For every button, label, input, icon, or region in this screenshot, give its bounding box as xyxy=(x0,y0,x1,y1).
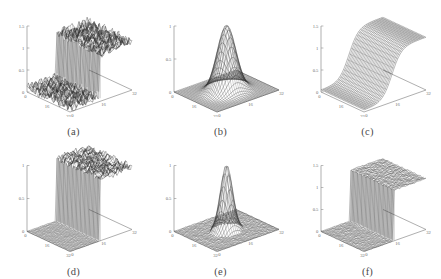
svg-text:1: 1 xyxy=(22,46,25,51)
subplot-caption-b: (b) xyxy=(147,126,294,137)
svg-text:1: 1 xyxy=(169,24,172,29)
subplot-panel-e: 10.500163201632 (e) xyxy=(147,139,294,279)
plot-area-f: 1.510.500163201632 xyxy=(294,139,441,257)
svg-text:32: 32 xyxy=(279,91,284,96)
svg-text:32: 32 xyxy=(279,230,284,235)
svg-text:16: 16 xyxy=(192,243,197,248)
svg-text:1: 1 xyxy=(22,163,25,168)
svg-text:0.5: 0.5 xyxy=(313,68,319,73)
svg-text:0: 0 xyxy=(71,113,74,117)
svg-text:0: 0 xyxy=(171,233,174,238)
subplot-panel-d: 10.500163201632 (d) xyxy=(0,139,147,279)
subplot-panel-b: 10.500163201632 (b) xyxy=(147,0,294,139)
svg-text:16: 16 xyxy=(101,241,106,246)
svg-text:1: 1 xyxy=(316,185,319,190)
plot-area-b: 10.500163201632 xyxy=(147,0,294,117)
svg-text:32: 32 xyxy=(132,230,137,235)
svg-text:32: 32 xyxy=(426,91,431,96)
svg-text:1: 1 xyxy=(169,163,172,168)
surface-plot-e: 10.500163201632 xyxy=(147,139,294,257)
subplot-panel-a: 1.510.500163201632 (a) xyxy=(0,0,147,139)
svg-text:0: 0 xyxy=(24,233,27,238)
svg-text:32: 32 xyxy=(132,91,137,96)
subplot-panel-c: 1.510.500163201632 (c) xyxy=(294,0,441,139)
svg-text:0: 0 xyxy=(71,252,74,257)
subplot-caption-a: (a) xyxy=(0,126,147,137)
plot-area-e: 10.500163201632 xyxy=(147,139,294,257)
svg-text:0: 0 xyxy=(365,113,368,117)
surface-plot-f: 1.510.500163201632 xyxy=(294,139,441,257)
svg-text:1.5: 1.5 xyxy=(313,24,319,29)
plot-area-a: 1.510.500163201632 xyxy=(0,0,147,117)
svg-text:0.5: 0.5 xyxy=(19,68,25,73)
svg-text:16: 16 xyxy=(395,241,400,246)
svg-text:0: 0 xyxy=(365,252,368,257)
svg-text:16: 16 xyxy=(339,243,344,248)
svg-text:0: 0 xyxy=(171,94,174,99)
svg-text:16: 16 xyxy=(248,241,253,246)
subplot-caption-d: (d) xyxy=(0,266,147,277)
svg-text:0: 0 xyxy=(24,94,27,99)
figure-3d-surface-grid: 1.510.500163201632 (a) 10.500163201632 (… xyxy=(0,0,441,279)
subplot-caption-f: (f) xyxy=(294,266,441,277)
surface-plot-a: 1.510.500163201632 xyxy=(0,0,147,117)
svg-text:0: 0 xyxy=(218,113,221,117)
plot-area-c: 1.510.500163201632 xyxy=(294,0,441,117)
plot-area-d: 10.500163201632 xyxy=(0,139,147,257)
svg-text:1.5: 1.5 xyxy=(313,163,319,168)
svg-text:16: 16 xyxy=(192,104,197,109)
subplot-caption-c: (c) xyxy=(294,126,441,137)
svg-text:1.5: 1.5 xyxy=(19,24,25,29)
svg-text:0: 0 xyxy=(318,233,321,238)
subplot-caption-e: (e) xyxy=(147,266,294,277)
surface-plot-d: 10.500163201632 xyxy=(0,139,147,257)
surface-plot-b: 10.500163201632 xyxy=(147,0,294,117)
svg-text:16: 16 xyxy=(101,102,106,107)
svg-text:16: 16 xyxy=(339,104,344,109)
svg-text:1: 1 xyxy=(316,46,319,51)
svg-text:0.5: 0.5 xyxy=(166,57,172,62)
surface-plot-c: 1.510.500163201632 xyxy=(294,0,441,117)
svg-text:0: 0 xyxy=(318,94,321,99)
subplot-grid: 1.510.500163201632 (a) 10.500163201632 (… xyxy=(0,0,441,279)
svg-text:0.5: 0.5 xyxy=(313,207,319,212)
svg-text:16: 16 xyxy=(45,104,50,109)
svg-text:16: 16 xyxy=(248,102,253,107)
subplot-panel-f: 1.510.500163201632 (f) xyxy=(294,139,441,279)
svg-text:0.5: 0.5 xyxy=(19,196,25,201)
svg-text:16: 16 xyxy=(395,102,400,107)
svg-text:32: 32 xyxy=(426,230,431,235)
svg-text:0.5: 0.5 xyxy=(166,196,172,201)
svg-text:0: 0 xyxy=(218,252,221,257)
svg-text:16: 16 xyxy=(45,243,50,248)
